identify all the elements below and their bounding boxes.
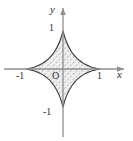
origin-label: O (52, 71, 59, 81)
tick-label-y-negative-one: -1 (43, 107, 51, 117)
tick-label-x-positive-one: 1 (97, 71, 102, 81)
tick-label-x-negative-one: -1 (16, 71, 24, 81)
tick-label-y-positive-one: 1 (49, 23, 54, 33)
astroid-figure: y x 1 -1 -1 1 O (0, 0, 133, 141)
y-axis-label: y (50, 4, 55, 15)
x-axis-label: x (117, 69, 122, 80)
y-axis-arrowhead (60, 8, 66, 15)
